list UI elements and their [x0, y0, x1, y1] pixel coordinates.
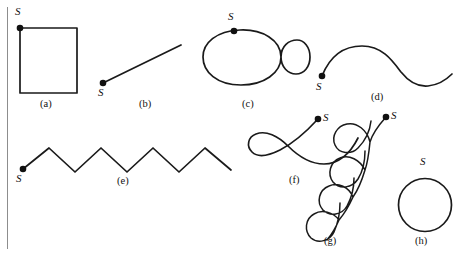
figure-g-caption: (g): [324, 236, 336, 247]
figure-h-circle: [399, 179, 452, 232]
figure-d-start-label: S: [316, 81, 322, 92]
figure-b-start-label: S: [98, 87, 104, 98]
figure-a-start-dot: [17, 25, 24, 32]
curve-figures-svg: [0, 0, 462, 256]
figure-b-caption: (b): [139, 99, 151, 110]
figure-panel: S S S S S S S S (a) (b) (c) (d) (e) (f) …: [0, 0, 462, 256]
figure-g-start-dot: [383, 114, 390, 121]
figure-c-start-label: S: [228, 11, 234, 22]
figure-g-coil: [306, 114, 389, 241]
figure-h-start-label: S: [420, 156, 426, 167]
figure-e-start-label: S: [16, 173, 22, 184]
figure-f-start-label: S: [323, 112, 329, 123]
figure-a-rectangle: [17, 25, 77, 93]
figure-c-figure-eight: [203, 28, 310, 85]
figure-e-zigzag: [20, 148, 231, 172]
figure-a-start-label: S: [15, 6, 21, 17]
figure-g-start-label: S: [391, 110, 397, 121]
figure-f-caption: (f): [289, 175, 300, 186]
figure-c-caption: (c): [242, 99, 254, 110]
figure-b-line: [100, 45, 181, 86]
figure-f-start-dot: [315, 116, 322, 123]
figure-e-caption: (e): [117, 176, 129, 187]
figure-d-start-dot: [319, 73, 326, 80]
figure-d-caption: (d): [371, 92, 383, 103]
figure-d-wave: [319, 46, 452, 86]
figure-a-caption: (a): [40, 99, 52, 110]
figure-c-start-dot: [231, 28, 238, 35]
figure-h-caption: (h): [415, 236, 427, 247]
